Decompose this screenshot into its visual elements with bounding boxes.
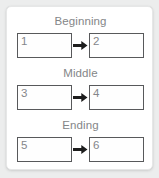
- group-ending: Ending 5 6: [7, 118, 153, 163]
- number-box-label: 1: [21, 35, 27, 48]
- number-box-label: 6: [93, 139, 99, 152]
- group-label-middle: Middle: [7, 66, 153, 80]
- pair-row-ending: 5 6: [7, 135, 153, 163]
- number-box-label: 5: [21, 139, 27, 152]
- number-box-1[interactable]: 1: [17, 33, 72, 58]
- number-box-label: 3: [21, 87, 27, 100]
- group-label-beginning: Beginning: [7, 14, 153, 28]
- arrow-right-icon: [72, 40, 89, 51]
- arrow-right-icon: [72, 92, 89, 103]
- group-middle: Middle 3 4: [7, 66, 153, 111]
- pair-row-beginning: 1 2: [7, 31, 153, 59]
- number-box-5[interactable]: 5: [17, 137, 72, 162]
- sequence-card: Beginning 1 2 Middle 3: [6, 6, 153, 170]
- number-box-label: 4: [93, 87, 99, 100]
- number-box-4[interactable]: 4: [89, 85, 144, 110]
- number-box-6[interactable]: 6: [89, 137, 144, 162]
- arrow-right-icon: [72, 144, 89, 155]
- pair-row-middle: 3 4: [7, 83, 153, 111]
- number-box-label: 2: [93, 35, 99, 48]
- group-label-ending: Ending: [7, 118, 153, 132]
- number-box-2[interactable]: 2: [89, 33, 144, 58]
- group-beginning: Beginning 1 2: [7, 14, 153, 59]
- number-box-3[interactable]: 3: [17, 85, 72, 110]
